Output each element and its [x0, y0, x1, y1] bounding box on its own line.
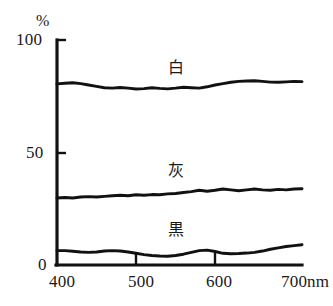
chart-canvas [0, 0, 333, 306]
series-label-gray: 灰 [168, 157, 184, 181]
x-tick-label-700nm: 700nm [281, 272, 329, 292]
x-tick-label-400: 400 [49, 272, 75, 292]
spectral-reflectance-figure: % 100 50 0 400 500 600 700nm 白 灰 黒 [0, 0, 333, 306]
y-tick-label-0: 0 [38, 255, 47, 275]
y-tick-label-100: 100 [16, 30, 42, 50]
x-tick-label-600: 600 [206, 272, 232, 292]
y-tick-label-50: 50 [26, 143, 43, 163]
series-label-black: 黒 [168, 216, 184, 240]
series-curve-white [57, 81, 302, 89]
y-axis-unit-label: % [36, 12, 50, 30]
series-curve-gray [57, 189, 302, 198]
series-label-white: 白 [168, 54, 184, 78]
series-curve-black [57, 245, 302, 256]
x-tick-label-500: 500 [128, 272, 154, 292]
